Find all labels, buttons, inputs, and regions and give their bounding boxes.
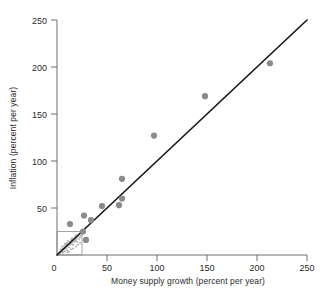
- x-tick-label-250: 250: [299, 263, 314, 273]
- scatter-chart: 250 200 150 100 50 0 50 100 150 200 250 …: [0, 0, 329, 288]
- data-point: [83, 237, 89, 243]
- x-tick-label-100: 100: [149, 263, 164, 273]
- data-point: [151, 133, 157, 139]
- data-point: [61, 246, 63, 248]
- y-tick-label-50: 50: [37, 204, 47, 214]
- data-point: [67, 221, 73, 227]
- data-point: [64, 250, 66, 252]
- data-point: [79, 236, 81, 238]
- y-axis-label: Inflation (percent per year): [8, 87, 18, 190]
- data-point: [267, 60, 273, 66]
- x-axis-label: Money supply growth (percent per year): [111, 276, 265, 286]
- data-point: [63, 245, 65, 247]
- data-point: [68, 247, 70, 249]
- data-point: [78, 238, 80, 240]
- data-point: [119, 176, 125, 182]
- data-point: [71, 237, 73, 239]
- data-point: [72, 248, 74, 250]
- data-point: [70, 249, 72, 251]
- chart-background: [0, 0, 329, 288]
- data-point: [76, 241, 78, 243]
- y-tick-label-100: 100: [32, 157, 47, 167]
- y-tick-label-200: 200: [32, 63, 47, 73]
- x-tick-label-0: 0: [51, 263, 56, 273]
- data-point: [62, 252, 64, 254]
- data-point: [99, 203, 105, 209]
- data-point: [67, 251, 69, 253]
- x-tick-label-200: 200: [249, 263, 264, 273]
- data-point: [119, 196, 125, 202]
- data-point: [88, 217, 94, 223]
- x-tick-label-50: 50: [102, 263, 112, 273]
- data-point: [80, 228, 86, 234]
- data-point: [66, 242, 68, 244]
- data-point: [116, 202, 122, 208]
- x-tick-label-150: 150: [199, 263, 214, 273]
- y-tick-label-150: 150: [32, 110, 47, 120]
- data-point: [79, 242, 81, 244]
- y-tick-label-250: 250: [32, 16, 47, 26]
- data-point: [202, 93, 208, 99]
- data-point: [75, 239, 77, 241]
- data-point: [80, 234, 82, 236]
- data-point: [66, 249, 68, 251]
- data-point: [72, 244, 74, 246]
- data-point: [77, 244, 79, 246]
- data-point: [75, 246, 77, 248]
- data-point: [67, 240, 69, 242]
- data-point: [81, 212, 87, 218]
